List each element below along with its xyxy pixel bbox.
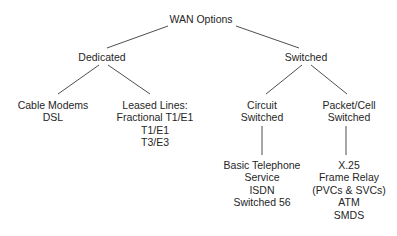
node-packet-cell-services-line-1: X.25: [312, 159, 386, 171]
node-circuit-switched-services-line-3: ISDN: [224, 184, 301, 196]
node-circuit-switched-services-line-2: Service: [224, 171, 301, 183]
node-circuit-switched-line-2: Switched: [241, 111, 284, 123]
node-dedicated: Dedicated: [78, 51, 125, 63]
node-leased-lines-line-1: Leased Lines:: [117, 99, 194, 111]
node-circuit-switched-services-line-4: Switched 56: [224, 196, 301, 208]
edge-switched-to-circuit-switched: [266, 65, 302, 94]
node-switched: Switched: [285, 51, 328, 63]
node-packet-cell-services: X.25 Frame Relay (PVCs & SVCs) ATM SMDS: [312, 159, 386, 221]
node-circuit-switched: Circuit Switched: [241, 99, 284, 124]
node-cable-modems-line-1: Cable Modems: [18, 99, 89, 111]
edge-root-to-switched: [236, 26, 299, 48]
node-packet-cell-services-line-2: Frame Relay: [312, 171, 386, 183]
node-leased-lines-line-2: Fractional T1/E1: [117, 111, 194, 123]
node-packet-cell-services-line-3: (PVCs & SVCs): [312, 184, 386, 196]
node-packet-cell-switched-line-1: Packet/Cell: [322, 99, 375, 111]
node-wan-options: WAN Options: [169, 13, 232, 25]
edge-switched-to-packet-cell-switched: [311, 65, 347, 94]
node-packet-cell-services-line-5: SMDS: [312, 209, 386, 221]
node-packet-cell-services-line-4: ATM: [312, 196, 386, 208]
node-packet-cell-switched-line-2: Switched: [322, 111, 375, 123]
wan-options-diagram: WAN Options Dedicated Switched Cable Mod…: [0, 0, 397, 236]
node-cable-modems-line-2: DSL: [18, 111, 89, 123]
node-leased-lines: Leased Lines: Fractional T1/E1 T1/E1 T3/…: [117, 99, 194, 149]
node-leased-lines-line-4: T3/E3: [117, 136, 194, 148]
node-circuit-switched-services-line-1: Basic Telephone: [224, 159, 301, 171]
node-packet-cell-switched: Packet/Cell Switched: [322, 99, 375, 124]
node-switched-label: Switched: [285, 51, 328, 63]
node-circuit-switched-line-1: Circuit: [241, 99, 284, 111]
node-wan-options-label: WAN Options: [169, 13, 232, 25]
edge-root-to-dedicated: [107, 26, 168, 48]
node-circuit-switched-services: Basic Telephone Service ISDN Switched 56: [224, 159, 301, 209]
node-dedicated-label: Dedicated: [78, 51, 125, 63]
node-cable-modems: Cable Modems DSL: [18, 99, 89, 124]
edge-dedicated-to-leased-lines: [108, 65, 150, 94]
node-leased-lines-line-3: T1/E1: [117, 124, 194, 136]
edge-dedicated-to-cable-modems: [58, 65, 99, 94]
